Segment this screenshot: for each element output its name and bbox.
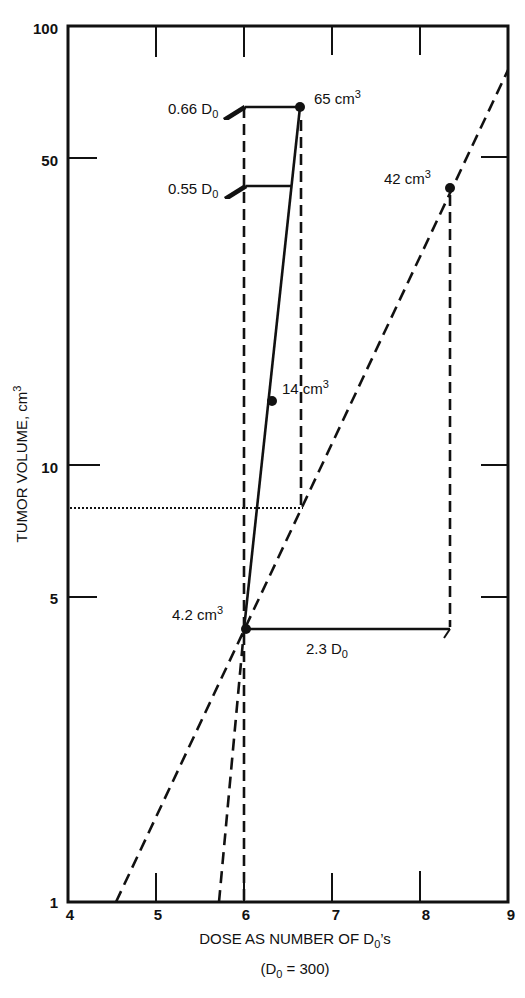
x-axis-note: (D0 = 300)	[0, 960, 525, 980]
y-tick-label: 1	[18, 894, 58, 911]
annotation-0-66: 0.66 D0	[168, 100, 218, 120]
y-tick-label: 5	[18, 590, 58, 607]
dashed-line-steep-extension	[219, 630, 244, 902]
x-ticks	[156, 26, 420, 902]
label-42: 42 cm3	[384, 168, 431, 187]
label-14: 14 cm3	[282, 378, 329, 397]
point-42	[445, 183, 455, 193]
x-tick-label: 5	[154, 906, 162, 923]
x-tick-label: 7	[332, 906, 340, 923]
annotation-2-3: 2.3 D0	[306, 640, 348, 660]
plot-frame	[68, 26, 508, 902]
x-axis-label: DOSE AS NUMBER OF D0’s	[0, 930, 525, 950]
y-axis-label: TUMOR VOLUME, cm3	[11, 386, 30, 543]
label-65: 65 cm3	[314, 88, 361, 107]
point-4-2	[241, 624, 251, 634]
x-tick-label: 6	[242, 906, 250, 923]
y-tick-label: 50	[18, 152, 58, 169]
annotation-0-55: 0.55 D0	[168, 180, 218, 200]
x-tick-label: 4	[66, 906, 74, 923]
arrowhead-2-3	[444, 629, 450, 638]
label-4-2: 4.2 cm3	[172, 604, 223, 623]
x-tick-label: 9	[507, 906, 515, 923]
y-tick-label: 100	[18, 20, 58, 37]
chart-canvas	[0, 0, 525, 998]
point-14	[267, 396, 277, 406]
x-tick-label: 8	[422, 906, 430, 923]
point-65	[295, 102, 305, 112]
